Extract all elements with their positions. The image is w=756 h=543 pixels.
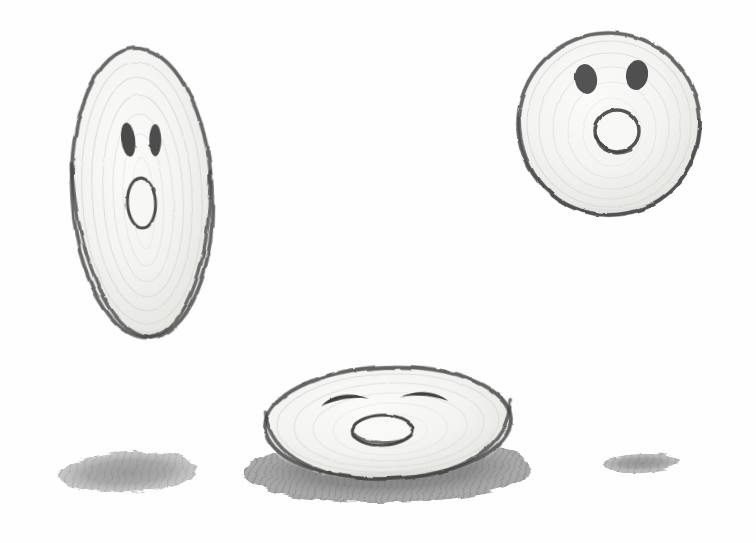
paper-grain-overlay: [0, 0, 756, 543]
pencil-drawing: [0, 0, 756, 543]
sketch-canvas: Three Onion Characters: [0, 0, 756, 543]
